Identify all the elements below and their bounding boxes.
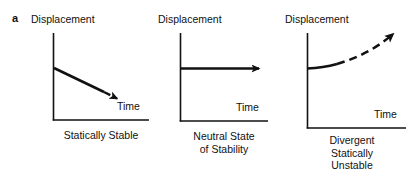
- panel3-x-axis-label: Time: [374, 108, 397, 120]
- panel3-response-solid: [307, 64, 337, 69]
- panel3-caption: Divergent Statically Unstable: [330, 134, 375, 172]
- panel2-caption: Neutral State of Stability: [193, 130, 254, 155]
- panel1-response-solid: [54, 68, 104, 92]
- panel1-x-axis-label: Time: [117, 100, 140, 112]
- panel1-caption: Statically Stable: [64, 129, 139, 142]
- panel1-response-dashed: [104, 92, 117, 99]
- panel1-y-axis-label: Displacement: [31, 13, 95, 25]
- figure-root: a: [0, 0, 416, 177]
- panel3-response-dashed: [337, 34, 393, 64]
- panel2-y-axis-label: Displacement: [158, 13, 222, 25]
- panel3-y-axis-label: Displacement: [285, 13, 349, 25]
- panel2-x-axis-label: Time: [236, 101, 259, 113]
